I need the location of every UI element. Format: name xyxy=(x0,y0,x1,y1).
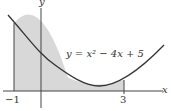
y-axis-label: y xyxy=(39,0,45,7)
x-axis-label: x xyxy=(162,84,168,95)
equation-label: y = x² − 4x + 5 xyxy=(66,48,144,59)
parabola-area-diagram: y x −1 3 y = x² − 4x + 5 xyxy=(0,0,171,111)
tick-label-3: 3 xyxy=(120,94,126,105)
tick-label-neg1: −1 xyxy=(5,94,20,105)
